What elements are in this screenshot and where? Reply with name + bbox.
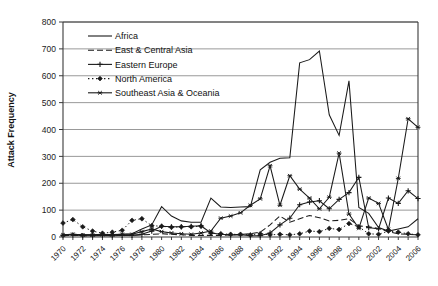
data-point-marker xyxy=(97,62,102,67)
y-axis-title-group: Attack Frequency xyxy=(6,92,16,168)
x-tick-label: 2004 xyxy=(384,244,403,263)
data-point-marker xyxy=(347,221,352,226)
x-tick-label: 1986 xyxy=(207,244,226,263)
y-tick-label: 400 xyxy=(42,125,56,135)
x-tick-label: 1992 xyxy=(266,244,285,263)
x-tick-label: 1974 xyxy=(88,244,107,263)
data-point-marker xyxy=(90,229,95,234)
chart-container: 0100200300400500600700800 19701972197419… xyxy=(0,0,438,286)
legend-item-eastern-europe[interactable]: Eastern Europe xyxy=(88,60,178,70)
data-point-marker xyxy=(159,224,164,229)
data-point-marker xyxy=(189,224,194,229)
data-point-marker xyxy=(386,195,391,200)
data-point-marker xyxy=(179,224,184,229)
y-tick-labels: 0100200300400500600700800 xyxy=(42,17,63,242)
data-point-marker xyxy=(366,231,371,236)
x-tick-label: 1988 xyxy=(226,244,245,263)
x-tick-label: 1998 xyxy=(325,244,344,263)
data-point-marker xyxy=(61,221,66,226)
data-point-marker xyxy=(406,231,411,236)
legend-label: East & Central Asia xyxy=(115,45,193,55)
data-point-marker xyxy=(366,225,371,230)
x-tick-label: 1970 xyxy=(49,244,68,263)
x-tick-labels: 1970197219741976197819801982198419861988… xyxy=(49,237,423,263)
data-point-marker xyxy=(307,196,312,200)
legend-label: Africa xyxy=(115,31,138,41)
data-point-marker xyxy=(159,230,164,234)
chart-legend: AfricaEast & Central AsiaEastern EuropeN… xyxy=(88,31,220,98)
legend-item-east-central-asia[interactable]: East & Central Asia xyxy=(88,45,193,55)
y-axis-title: Attack Frequency xyxy=(6,92,16,168)
x-tick-label: 1972 xyxy=(69,244,88,263)
data-point-marker xyxy=(199,224,204,229)
x-tick-label: 1976 xyxy=(108,244,127,263)
data-point-marker xyxy=(307,229,312,234)
x-tick-label: 1984 xyxy=(187,244,206,263)
data-point-marker xyxy=(238,232,243,237)
data-point-marker xyxy=(110,230,115,235)
data-point-marker xyxy=(120,228,125,233)
x-tick-label: 1996 xyxy=(305,244,324,263)
x-tick-label: 1990 xyxy=(246,244,265,263)
plot-area: 0100200300400500600700800 19701972197419… xyxy=(0,0,438,286)
legend-item-southeast-asia-oceania[interactable]: Southeast Asia & Oceania xyxy=(88,88,220,98)
data-point-marker xyxy=(98,91,103,95)
y-tick-label: 100 xyxy=(42,205,56,215)
data-point-marker xyxy=(130,218,135,223)
data-point-marker xyxy=(228,232,233,237)
data-point-marker xyxy=(98,76,103,81)
data-point-marker xyxy=(297,231,302,236)
data-point-marker xyxy=(278,232,283,237)
legend-label: Southeast Asia & Oceania xyxy=(115,88,220,98)
x-tick-label: 1978 xyxy=(128,244,147,263)
data-point-marker xyxy=(139,216,144,221)
data-point-marker xyxy=(376,226,381,231)
y-tick-label: 800 xyxy=(42,17,56,27)
x-tick-label: 2000 xyxy=(345,244,364,263)
data-point-marker xyxy=(218,216,223,220)
y-tick-label: 700 xyxy=(42,44,56,54)
x-tick-label: 1982 xyxy=(167,244,186,263)
y-tick-label: 500 xyxy=(42,98,56,108)
data-point-marker xyxy=(317,229,322,234)
x-tick-label: 1980 xyxy=(148,244,167,263)
data-point-marker xyxy=(337,227,342,232)
data-point-marker xyxy=(169,225,174,230)
x-tick-label: 1994 xyxy=(286,244,305,263)
data-point-marker xyxy=(327,226,332,231)
legend-label: North America xyxy=(115,74,172,84)
data-point-marker xyxy=(376,232,381,237)
y-tick-label: 600 xyxy=(42,71,56,81)
data-point-marker xyxy=(228,214,233,218)
line-chart-svg: 0100200300400500600700800 19701972197419… xyxy=(0,0,438,286)
y-tick-label: 300 xyxy=(42,152,56,162)
data-point-marker xyxy=(238,211,243,215)
data-point-marker xyxy=(199,231,204,235)
x-tick-label: 2002 xyxy=(365,244,384,263)
data-point-marker xyxy=(297,187,302,191)
series-polyline xyxy=(63,119,418,235)
legend-item-africa[interactable]: Africa xyxy=(88,31,138,41)
x-tick-label: 2006 xyxy=(404,244,423,263)
y-tick-label: 0 xyxy=(51,232,56,242)
legend-label: Eastern Europe xyxy=(115,60,178,70)
y-tick-label: 200 xyxy=(42,178,56,188)
